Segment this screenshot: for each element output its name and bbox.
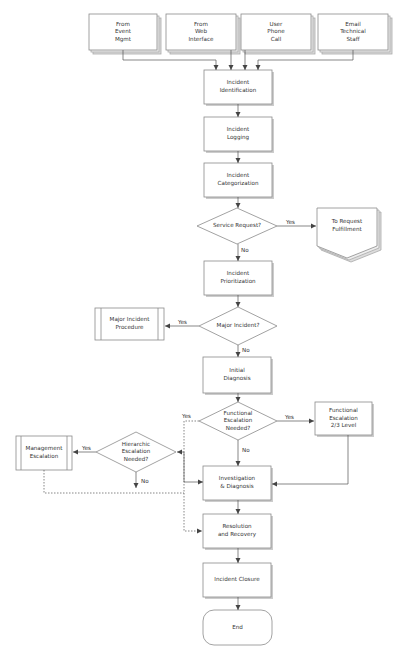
source-event-mgmt: From Event Mgmt [89, 14, 157, 50]
terminator-end: End [203, 610, 272, 645]
edge-label-major-no: No [242, 347, 250, 353]
step-closure: Incident Closure [203, 563, 271, 597]
source-email: Email Technical Staff [318, 14, 388, 50]
edge-label-hierarchic-no: No [141, 478, 149, 484]
management-escalation: Management Escalation [16, 436, 72, 470]
edge-label-functional-no: No [242, 447, 250, 453]
decision-service-request: Service Request? [197, 208, 277, 244]
decision-hierarchic-escalation: Hierarchic Escalation Needed? [96, 432, 176, 472]
request-fulfillment-connector: To Request Fulfillment [317, 208, 377, 244]
source-web-interface: From Web Interface [166, 14, 236, 50]
step-logging: Incident Logging [204, 117, 272, 151]
edge-label-service-no: No [241, 247, 249, 253]
step-resolution: Resolution and Recovery [203, 514, 271, 548]
edge-label-functional-yes-right: Yes [285, 414, 294, 420]
decision-functional-escalation: Functional Escalation Needed? [199, 402, 277, 440]
source-phone-call: User Phone Call [241, 14, 311, 50]
step-identification: Incident Identification [204, 70, 272, 104]
step-categorization: Incident Categorization [204, 163, 272, 197]
step-prioritization: Incident Prioritization [204, 261, 272, 295]
edge-label-service-yes: Yes [286, 219, 295, 225]
step-initial-diagnosis: Initial Diagnosis [203, 357, 271, 393]
edge-label-hierarchic-yes: Yes [82, 445, 91, 451]
decision-major-incident: Major Incident? [199, 307, 277, 345]
edge-label-functional-yes-left: Yes [182, 413, 191, 419]
step-investigation: Investigation & Diagnosis [203, 466, 271, 500]
edge-label-major-yes: Yes [178, 319, 187, 325]
functional-escalation-level: Functional Escalation 2/3 Level [315, 402, 372, 435]
major-incident-procedure: Major Incident Procedure [101, 308, 158, 340]
